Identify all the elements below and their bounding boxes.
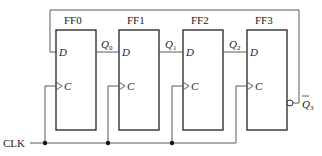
ff3-c-label: C	[255, 80, 263, 92]
ff1-d-label: D	[121, 46, 130, 58]
q0-label: Q	[101, 38, 109, 50]
ff2-c-label: C	[191, 80, 199, 92]
clk-ff0-wire	[45, 86, 56, 143]
ff0-label: FF0	[64, 14, 82, 26]
ff2-d-label: D	[185, 46, 194, 58]
ff3-label: FF3	[255, 14, 273, 26]
clk-ff1-wire	[108, 86, 119, 143]
flipflop-ff2: FF2 D C	[183, 14, 223, 130]
q1-label: Q	[165, 38, 173, 50]
junction-dot	[106, 141, 110, 145]
flipflop-ff1: FF1 D C	[119, 14, 159, 130]
clk-ff2-wire	[172, 86, 183, 143]
clk-ff3-wire	[236, 86, 247, 143]
q2-label: Q	[229, 38, 237, 50]
ff1-c-label: C	[127, 80, 135, 92]
junction-dot	[43, 141, 47, 145]
ff0-d-label: D	[58, 46, 67, 58]
q3bar-subscript: 3	[310, 104, 314, 112]
ff3-d-label: D	[249, 46, 258, 58]
q0-subscript: 0	[109, 44, 113, 52]
ff0-c-label: C	[64, 80, 72, 92]
clk-label: CLK	[3, 137, 25, 149]
q3bar-label: Q	[302, 98, 310, 110]
q1-subscript: 1	[173, 44, 177, 52]
flipflop-ff3: FF3 D C	[247, 14, 287, 130]
q2-subscript: 2	[237, 44, 241, 52]
ff2-label: FF2	[191, 14, 209, 26]
johnson-counter-diagram: FF0 D C FF1 D C FF2 D C FF3 D C Q 0 Q 1 …	[0, 0, 322, 156]
ff1-label: FF1	[127, 14, 145, 26]
junction-dot	[170, 141, 174, 145]
flipflop-ff0: FF0 D C	[56, 14, 96, 130]
inverter-bubble-icon	[287, 100, 293, 106]
